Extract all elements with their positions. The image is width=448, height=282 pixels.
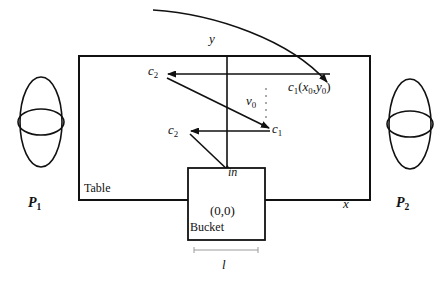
label-table: Table [84,182,110,194]
player-right-figure [387,79,433,169]
label-axis-x: x [343,197,349,210]
trajectory-arc-path [153,10,327,82]
player-right-body-ellipse [389,79,431,169]
label-c2-upper-subscript: 2 [154,70,158,80]
label-c1-lower-subscript: 1 [278,128,282,138]
label-length-l: l [222,258,226,271]
label-player-1-subscript: 1 [37,202,42,212]
player-right-head-ellipse [387,111,433,137]
label-c2-lower-subscript: 2 [174,129,178,139]
label-c1-paren-close: ) [326,79,330,94]
label-velocity-subscript: 0 [252,100,256,110]
label-player-2-base: P [396,195,405,210]
label-player-2-subscript: 2 [405,202,410,212]
player-left-head-ellipse [18,109,64,135]
label-player-2: P2 [396,196,409,213]
label-c1-coordinates: c1(x0,y0) [288,80,331,96]
label-player-1: P1 [28,196,41,213]
label-origin: (0,0) [210,204,235,217]
label-c2-lower: c2 [168,123,178,139]
label-c2-upper: c2 [148,64,158,80]
label-player-1-base: P [28,195,37,210]
diagram-canvas: c2 c2 c1 c1(x0,y0) v0 y x in (0,0) Bucke… [0,0,448,282]
label-bucket: Bucket [190,221,224,233]
diagram-vector-layer [0,0,448,282]
label-c1-lower: c1 [272,122,282,138]
player-left-figure [18,77,64,167]
label-in: in [228,166,237,178]
label-axis-y: y [209,32,215,45]
player-left-body-ellipse [20,77,62,167]
label-velocity: v0 [246,94,256,110]
